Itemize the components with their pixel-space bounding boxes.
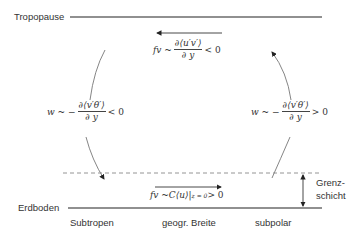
formula-bottom-relation: > 0 (207, 190, 223, 200)
formula-top-numerator: ∂⟨u′v′⟩ (174, 38, 203, 50)
formula-right-numerator: ∂⟨v′θ′⟩ (282, 100, 310, 112)
formula-left-relation: < 0 (108, 107, 124, 117)
formula-right-heat: w ~ − ∂⟨v′θ′⟩ ∂ y > 0 (251, 100, 328, 123)
formula-left-heat: w ~ − ∂⟨v′θ′⟩ ∂ y < 0 (47, 100, 124, 123)
boundary-layer-label-line1: Grenz- (316, 177, 345, 188)
formula-left-denominator: ∂ y (85, 112, 98, 123)
x-label-subpolar: subpolar (255, 217, 291, 228)
formula-right-denominator: ∂ y (289, 112, 302, 123)
formula-right-relation: > 0 (312, 107, 328, 117)
x-label-subtropics: Subtropen (70, 217, 114, 228)
formula-top-fraction: ∂⟨u′v′⟩ ∂ y (174, 38, 203, 61)
formula-right-lhs: w ~ − (251, 107, 280, 117)
formula-bottom-subscript: z = 0 (192, 192, 208, 199)
formula-top-lhs: fv ~ (153, 45, 172, 55)
right-arc-lower (272, 137, 290, 178)
formula-left-fraction: ∂⟨v′θ′⟩ ∂ y (78, 100, 106, 123)
left-arc-upper (90, 50, 105, 100)
formula-bottom-lhs: fv ~C⟨u⟩| (150, 190, 192, 200)
formula-surface-friction: fv ~C⟨u⟩| z = 0 > 0 (150, 190, 224, 200)
formula-top-relation: < 0 (204, 45, 220, 55)
ground-label: Erdboden (18, 202, 59, 213)
formula-top-denominator: ∂ y (182, 50, 195, 61)
tropopause-label: Tropopause (14, 11, 64, 22)
formula-left-lhs: w ~ − (47, 107, 76, 117)
boundary-layer-label-line2: schicht (316, 190, 346, 201)
formula-upper-momentum: fv ~ ∂⟨u′v′⟩ ∂ y < 0 (153, 38, 221, 61)
right-arc-upper (272, 52, 291, 100)
x-label-latitude: geogr. Breite (162, 217, 216, 228)
formula-right-fraction: ∂⟨v′θ′⟩ ∂ y (282, 100, 310, 123)
formula-left-numerator: ∂⟨v′θ′⟩ (78, 100, 106, 112)
